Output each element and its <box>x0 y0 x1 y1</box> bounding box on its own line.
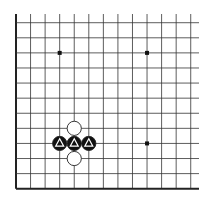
star-point-icon <box>58 51 62 55</box>
stones[interactable] <box>53 121 96 165</box>
grid-lines <box>16 14 199 189</box>
white-stone[interactable] <box>67 151 81 165</box>
black-stone-marked[interactable] <box>53 136 67 150</box>
go-board[interactable] <box>0 0 212 208</box>
white-stone[interactable] <box>67 121 81 135</box>
black-stone-marked[interactable] <box>67 136 81 150</box>
star-point-icon <box>145 141 149 145</box>
white-stone-icon <box>67 121 81 135</box>
black-stone-marked[interactable] <box>82 136 96 150</box>
white-stone-icon <box>67 151 81 165</box>
star-point-icon <box>145 51 149 55</box>
